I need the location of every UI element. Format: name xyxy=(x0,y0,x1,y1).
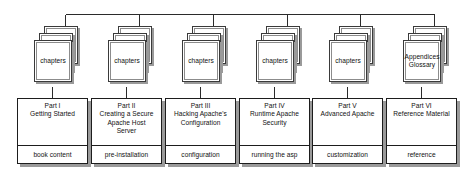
chapter-stack-1[interactable]: chapters xyxy=(28,26,80,86)
chapter-stack-4[interactable]: chapters xyxy=(250,26,302,86)
stack-card-front[interactable]: chapters xyxy=(256,40,294,82)
stack-label: chapters xyxy=(335,57,361,65)
part-name: Getting Started xyxy=(30,110,75,117)
part-box-tag: pre-installation xyxy=(92,145,161,163)
part-box-tag: customization xyxy=(313,145,382,163)
stack-card-front[interactable]: chapters xyxy=(34,40,72,82)
part-box-title: Part V Advanced Apache xyxy=(313,99,382,145)
part-box-tag: running the asp xyxy=(240,145,309,163)
stack-card-front[interactable]: chapters xyxy=(108,40,146,82)
stack-card-front[interactable]: Appendices Glossary xyxy=(403,40,441,82)
part-number: Part IV xyxy=(264,102,284,109)
part-number: Part II xyxy=(118,102,136,109)
part-number: Part V xyxy=(338,102,357,109)
part-name: Reference Material xyxy=(393,110,449,117)
part-name: Hacking Apache's Configuration xyxy=(174,110,227,125)
chapter-stack-5[interactable]: chapters xyxy=(323,26,375,86)
stack-label: chapters xyxy=(188,57,214,65)
part-box-1[interactable]: Part I Getting Started book content xyxy=(17,98,88,164)
stack-label: Appendices Glossary xyxy=(405,53,440,69)
part-box-5[interactable]: Part V Advanced Apache customization xyxy=(312,98,383,164)
part-box-title: Part IV Runtime Apache Security xyxy=(240,99,309,145)
part-box-title: Part III Hacking Apache's Configuration xyxy=(166,99,235,145)
part-box-2[interactable]: Part II Creating a Secure Apache Host Se… xyxy=(91,98,162,164)
part-name: Runtime Apache Security xyxy=(250,110,299,125)
stack-card-front[interactable]: chapters xyxy=(329,40,367,82)
stack-label: chapters xyxy=(114,57,140,65)
part-name: Creating a Secure Apache Host Server xyxy=(100,110,154,134)
part-box-4[interactable]: Part IV Runtime Apache Security running … xyxy=(239,98,310,164)
part-number: Part VI xyxy=(411,102,431,109)
part-name: Advanced Apache xyxy=(321,110,375,117)
chapter-stack-6[interactable]: Appendices Glossary xyxy=(397,26,449,86)
part-box-title: Part VI Reference Material xyxy=(387,99,456,145)
part-box-6[interactable]: Part VI Reference Material reference xyxy=(386,98,457,164)
part-number: Part I xyxy=(45,102,61,109)
part-number: Part III xyxy=(191,102,211,109)
part-box-tag: reference xyxy=(387,145,456,163)
part-box-title: Part I Getting Started xyxy=(18,99,87,145)
part-box-tag: configuration xyxy=(166,145,235,163)
stack-label: chapters xyxy=(262,57,288,65)
diagram-canvas: chapters chapters chapters chapters xyxy=(0,0,467,177)
part-box-title: Part II Creating a Secure Apache Host Se… xyxy=(92,99,161,145)
part-box-tag: book content xyxy=(18,145,87,163)
stack-label: chapters xyxy=(40,57,66,65)
chapter-stack-3[interactable]: chapters xyxy=(176,26,228,86)
stack-card-front[interactable]: chapters xyxy=(182,40,220,82)
chapter-stack-2[interactable]: chapters xyxy=(102,26,154,86)
part-box-3[interactable]: Part III Hacking Apache's Configuration … xyxy=(165,98,236,164)
